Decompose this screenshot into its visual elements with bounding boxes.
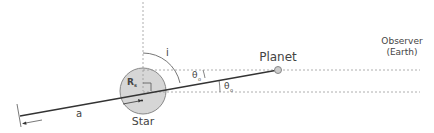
planet-label: Planet [259,50,297,64]
arrowhead-icon [22,122,27,125]
observer-earth-label: (Earth) [386,47,417,57]
observer-label: Observer [381,36,423,46]
theta-lower-arc [219,80,220,92]
semi-major-axis-label: a [76,108,82,119]
star-radius-label: R [127,77,134,87]
theta-lower-subscript: o [230,87,233,93]
theta-upper-arc [203,70,205,78]
theta-upper-subscript: o [198,76,201,82]
planet-circle [275,67,282,74]
star-label: Star [132,115,155,128]
star-radius-subscript: s [134,82,137,88]
inclination-label: i [166,47,169,58]
transit-geometry-diagram: Planet Observer (Earth) Star R s i θ o θ… [0,0,434,133]
star-center-dot [141,100,143,102]
